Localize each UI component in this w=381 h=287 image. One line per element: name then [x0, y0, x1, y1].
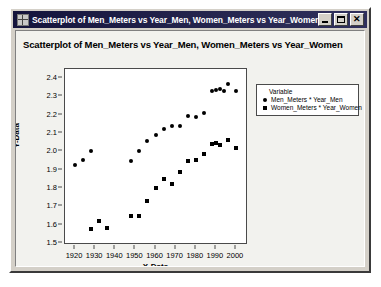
data-point-series-1[interactable]: [137, 214, 141, 218]
data-point-series-0[interactable]: [202, 111, 206, 115]
data-point-series-0[interactable]: [145, 139, 149, 143]
y-tick-mark: [58, 150, 62, 151]
x-tick-mark: [154, 245, 155, 249]
data-point-series-0[interactable]: [73, 163, 77, 167]
y-tick-mark: [58, 77, 62, 78]
data-point-series-0[interactable]: [222, 89, 226, 93]
y-tick-mark: [58, 168, 62, 169]
y-tick-label: 2.1: [47, 128, 57, 137]
minimize-button[interactable]: [318, 13, 332, 26]
legend-title: Variable: [269, 88, 354, 95]
legend-item-label: Men_Meters * Year_Men: [271, 96, 343, 103]
graph-window-icon: [17, 14, 29, 26]
x-tick-mark: [94, 245, 95, 249]
legend-item-label: Women_Meters * Year_Women: [271, 104, 362, 111]
data-point-series-0[interactable]: [89, 149, 93, 153]
x-tick-mark: [234, 245, 235, 249]
x-axis: 192019301940195019601970198019902000: [64, 245, 247, 261]
legend-item[interactable]: Men_Meters * Year_Men: [261, 96, 354, 103]
y-tick-label: 1.7: [47, 201, 57, 210]
graph-window: Scatterplot of Men_Meters vs Year_Men, W…: [9, 7, 371, 273]
data-point-series-0[interactable]: [178, 124, 182, 128]
maximize-icon: [337, 16, 345, 23]
data-point-series-1[interactable]: [89, 227, 93, 231]
data-point-series-0[interactable]: [154, 133, 158, 137]
square-marker-icon: [261, 106, 269, 110]
data-point-series-1[interactable]: [218, 143, 222, 147]
window-controls: ✕: [318, 13, 365, 26]
y-tick-label: 1.8: [47, 183, 57, 192]
y-tick-label: 2.2: [47, 109, 57, 118]
data-point-series-0[interactable]: [186, 114, 190, 118]
graph-client-area: Scatterplot of Men_Meters vs Year_Men, W…: [15, 30, 365, 267]
legend-items: Men_Meters * Year_MenWomen_Meters * Year…: [261, 96, 354, 111]
data-point-series-1[interactable]: [162, 177, 166, 181]
y-tick-label: 2.3: [47, 91, 57, 100]
data-point-series-1[interactable]: [194, 158, 198, 162]
minimize-icon: [322, 21, 328, 23]
data-point-series-1[interactable]: [105, 226, 109, 230]
x-tick-label: 1990: [206, 251, 223, 260]
window-title: Scatterplot of Men_Meters vs Year_Men, W…: [32, 15, 318, 25]
data-point-series-1[interactable]: [234, 146, 238, 150]
x-tick-label: 1930: [86, 251, 103, 260]
y-tick-mark: [58, 205, 62, 206]
data-point-series-0[interactable]: [194, 115, 198, 119]
data-point-series-1[interactable]: [154, 186, 158, 190]
data-point-series-0[interactable]: [226, 82, 230, 86]
legend-item[interactable]: Women_Meters * Year_Women: [261, 104, 354, 111]
legend: Variable Men_Meters * Year_MenWomen_Mete…: [256, 84, 359, 116]
x-tick-mark: [194, 245, 195, 249]
x-axis-title: X-Data: [64, 262, 247, 267]
y-tick-label: 2.0: [47, 146, 57, 155]
data-point-series-0[interactable]: [170, 124, 174, 128]
close-button[interactable]: ✕: [350, 13, 364, 26]
y-tick-label: 1.5: [47, 238, 57, 247]
data-point-series-1[interactable]: [178, 170, 182, 174]
data-point-series-0[interactable]: [234, 89, 238, 93]
title-bar: Scatterplot of Men_Meters vs Year_Men, W…: [13, 11, 367, 28]
data-point-series-1[interactable]: [202, 152, 206, 156]
x-tick-mark: [214, 245, 215, 249]
data-point-series-1[interactable]: [129, 214, 133, 218]
data-point-series-1[interactable]: [186, 159, 190, 163]
data-point-series-0[interactable]: [162, 127, 166, 131]
x-tick-label: 1950: [126, 251, 143, 260]
x-tick-label: 1960: [146, 251, 163, 260]
y-tick-label: 1.6: [47, 219, 57, 228]
close-icon: ✕: [351, 14, 363, 25]
data-point-series-1[interactable]: [145, 199, 149, 203]
y-tick-label: 1.9: [47, 164, 57, 173]
y-tick-mark: [58, 95, 62, 96]
circle-marker-icon: [261, 98, 269, 102]
data-point-series-1[interactable]: [170, 182, 174, 186]
data-point-series-0[interactable]: [81, 158, 85, 162]
y-tick-mark: [58, 132, 62, 133]
x-tick-label: 1980: [186, 251, 203, 260]
chart-title: Scatterplot of Men_Meters vs Year_Men, W…: [23, 39, 343, 50]
data-point-series-0[interactable]: [137, 149, 141, 153]
x-tick-label: 1940: [106, 251, 123, 260]
data-point-series-1[interactable]: [97, 219, 101, 223]
data-point-series-1[interactable]: [226, 138, 230, 142]
y-axis: 1.51.61.71.81.92.02.12.22.32.4: [16, 68, 62, 244]
plot-area[interactable]: [64, 68, 247, 244]
scatterplot-graph[interactable]: Scatterplot of Men_Meters vs Year_Men, W…: [16, 31, 364, 266]
y-tick-mark: [58, 113, 62, 114]
maximize-button[interactable]: [334, 13, 348, 26]
y-tick-mark: [58, 223, 62, 224]
x-tick-mark: [74, 245, 75, 249]
data-point-series-0[interactable]: [129, 159, 133, 163]
x-tick-label: 1920: [66, 251, 83, 260]
x-tick-mark: [134, 245, 135, 249]
x-tick-mark: [174, 245, 175, 249]
x-tick-mark: [114, 245, 115, 249]
x-tick-label: 1970: [166, 251, 183, 260]
y-tick-label: 2.4: [47, 73, 57, 82]
y-tick-mark: [58, 187, 62, 188]
x-tick-label: 2000: [227, 251, 244, 260]
y-tick-mark: [58, 242, 62, 243]
